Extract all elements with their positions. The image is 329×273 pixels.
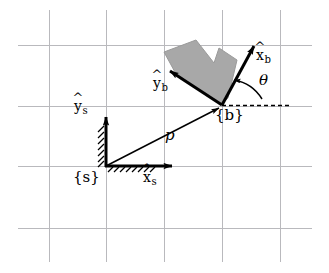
label-body-frame: {b} (215, 108, 244, 123)
label-y-hat-b: ^yb (153, 76, 168, 93)
y-b-subscript: b (161, 82, 167, 93)
frames-diagram: ^ys ^xs {s} ^yb ^xb {b} p θ (0, 0, 329, 273)
y-s-subscript: s (82, 105, 87, 116)
y-b-hat-mark: ^ (152, 69, 163, 82)
label-y-hat-s: ^ys (74, 99, 88, 116)
x-b-hat-mark: ^ (255, 41, 266, 54)
x-s-hat-mark: ^ (142, 163, 153, 176)
x-b-subscript: b (264, 54, 270, 65)
label-theta-angle: θ (259, 73, 268, 88)
label-position-vector-p: p (165, 128, 175, 143)
label-x-hat-b: ^xb (256, 48, 271, 65)
label-space-frame: {s} (73, 170, 100, 185)
x-s-subscript: s (151, 176, 156, 187)
y-s-hat-mark: ^ (73, 92, 84, 105)
label-x-hat-s: ^xs (143, 170, 157, 187)
